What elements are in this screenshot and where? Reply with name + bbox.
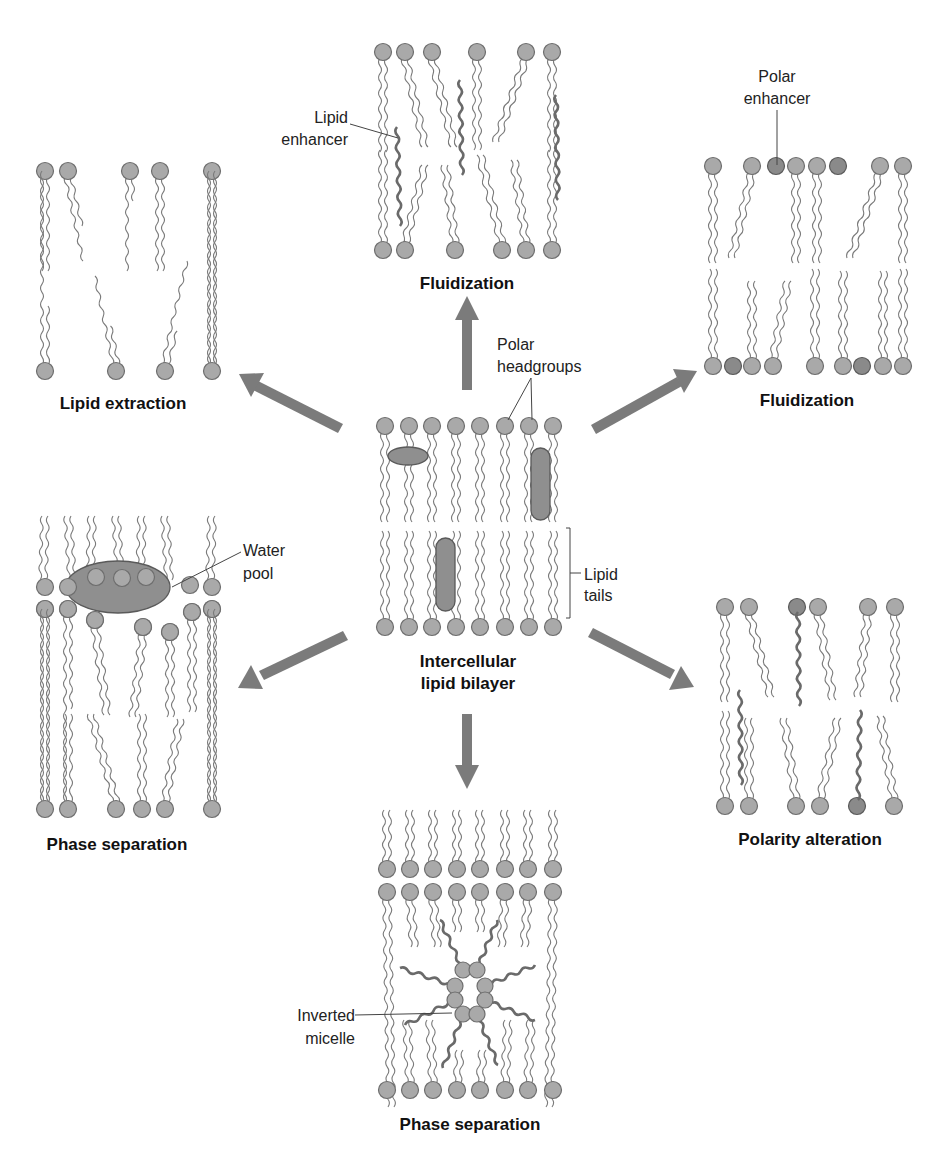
lipid-molecule bbox=[780, 718, 804, 815]
lipid-molecule bbox=[377, 418, 394, 523]
polar-headgroup bbox=[472, 1082, 489, 1099]
lipid-tail bbox=[459, 898, 462, 932]
polar-headgroup bbox=[807, 358, 824, 375]
enhancer-headgroup bbox=[768, 158, 785, 175]
lipid-molecule bbox=[895, 269, 912, 375]
lipid-tail bbox=[403, 1020, 409, 1084]
enhancer-pill bbox=[531, 448, 550, 520]
water-pool-label-line2: pool bbox=[243, 565, 273, 582]
lipid-tail bbox=[524, 1020, 529, 1084]
polar-headgroup bbox=[518, 242, 535, 259]
lipid-tail bbox=[555, 810, 558, 864]
lipid-tail bbox=[460, 1050, 464, 1084]
inverted-micelle-leader bbox=[355, 1013, 452, 1015]
lipid-molecule bbox=[134, 714, 151, 818]
polar-headgroup bbox=[497, 418, 514, 435]
lipid-tail bbox=[458, 531, 461, 621]
lipid-molecule bbox=[37, 171, 54, 380]
lipid-tail bbox=[389, 898, 396, 1107]
lipid-tail bbox=[459, 810, 462, 864]
lipid-molecule bbox=[469, 44, 486, 151]
polar-headgroup bbox=[157, 801, 174, 818]
polar-headgroup bbox=[425, 884, 442, 901]
polar-headgroup bbox=[204, 801, 221, 818]
lipid-tail bbox=[798, 172, 801, 263]
lipid-tail bbox=[400, 967, 455, 986]
polar-headgroup bbox=[134, 801, 151, 818]
lipid-molecule bbox=[401, 531, 418, 636]
lipid-molecule bbox=[835, 271, 852, 375]
lipid-molecule bbox=[493, 44, 535, 143]
lipid-molecule bbox=[449, 1050, 466, 1099]
polar-headgroup bbox=[60, 601, 77, 618]
lipid-tail bbox=[426, 1020, 432, 1084]
polar-headgroup bbox=[162, 624, 179, 641]
polar-headgroup bbox=[182, 577, 199, 594]
polar-headgroup bbox=[424, 619, 441, 636]
lipid-tail bbox=[525, 531, 528, 621]
arrow-down-right bbox=[588, 628, 694, 690]
lipid-tail bbox=[473, 58, 476, 150]
lipid-tail bbox=[379, 150, 382, 244]
polar-headgroup bbox=[494, 242, 511, 259]
lipid-molecule bbox=[425, 1020, 442, 1099]
panel-bottom-phase-separation bbox=[379, 810, 562, 1107]
lipid-tail bbox=[405, 432, 408, 522]
lipid-molecule bbox=[497, 1020, 514, 1099]
lipid-tail bbox=[87, 714, 113, 803]
polar-headgroup bbox=[60, 163, 77, 180]
lipid-molecule bbox=[425, 884, 442, 948]
polar-headgroup bbox=[521, 418, 538, 435]
lipid-tail bbox=[162, 261, 188, 365]
lipid-tail bbox=[395, 127, 401, 226]
polar-headgroup bbox=[424, 418, 441, 435]
lipid-tail bbox=[479, 58, 482, 150]
lipid-tails-label-line1: Lipid bbox=[584, 566, 618, 583]
lipid-tail bbox=[476, 810, 479, 864]
panel-bottom-left-title: Phase separation bbox=[47, 835, 188, 854]
lipid-tail bbox=[381, 531, 384, 621]
polar-headgroup bbox=[60, 801, 77, 818]
polar-headgroup bbox=[397, 242, 414, 259]
polar-headgroup bbox=[449, 1082, 466, 1099]
lipid-tail bbox=[161, 516, 167, 580]
polar-headgroup bbox=[37, 363, 54, 380]
lipid-tail bbox=[728, 172, 749, 258]
polar-headgroup bbox=[88, 569, 105, 586]
lipid-tail bbox=[206, 516, 210, 580]
panel-top-title: Fluidization bbox=[420, 274, 514, 293]
lipid-tail bbox=[144, 714, 147, 803]
enhancer-headgroup bbox=[725, 358, 742, 375]
lipid-molecule bbox=[37, 609, 54, 818]
polar-headgroup bbox=[705, 158, 722, 175]
lipid-tail bbox=[383, 898, 390, 1107]
lipid-tail bbox=[39, 516, 43, 580]
polar-headgroup bbox=[447, 242, 464, 259]
lipid-tail bbox=[47, 177, 50, 271]
polar-headgroup bbox=[375, 242, 392, 259]
lipid-molecule bbox=[497, 884, 514, 948]
lipid-tail bbox=[721, 613, 724, 702]
lipid-tail bbox=[530, 1020, 535, 1084]
lipid-tail bbox=[70, 615, 73, 709]
lipid-tail bbox=[555, 531, 558, 621]
lipid-tail bbox=[385, 150, 388, 244]
lipid-tail bbox=[883, 716, 898, 800]
lipid-molecule bbox=[424, 418, 441, 523]
lipid-tail bbox=[549, 531, 552, 621]
lipid-tail bbox=[402, 165, 422, 244]
polar-headgroup bbox=[204, 579, 221, 596]
lipid-molecule bbox=[810, 599, 837, 701]
lipid-tail bbox=[549, 810, 552, 864]
lipid-tail bbox=[428, 432, 431, 522]
lipid-tail bbox=[709, 269, 712, 360]
lipid-molecule bbox=[545, 531, 562, 636]
polar-headgroup bbox=[401, 619, 418, 636]
lipid-tail bbox=[526, 898, 531, 947]
polar-headgroup bbox=[741, 798, 758, 815]
lipid-tail bbox=[70, 516, 76, 580]
lipid-tail bbox=[503, 898, 508, 947]
polar-headgroup bbox=[425, 861, 442, 878]
lipid-tail bbox=[126, 177, 129, 271]
panel-bottom-right-polarity-alteration bbox=[717, 599, 904, 815]
